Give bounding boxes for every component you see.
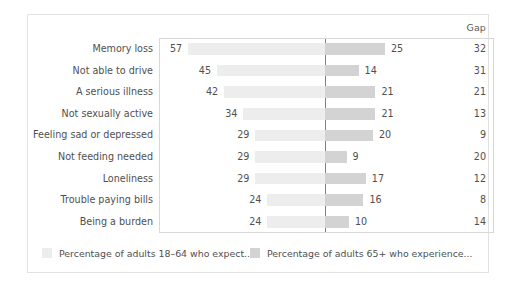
chart-row: Memory loss572532 <box>28 38 490 60</box>
bar-right <box>325 216 349 228</box>
bar-right <box>325 86 375 98</box>
bar-right-value: 20 <box>379 124 409 146</box>
bar-left-value: 57 <box>146 38 182 60</box>
chart-row: A serious illness422121 <box>28 81 490 103</box>
chart-row: Trouble paying bills24168 <box>28 189 490 211</box>
bar-left <box>255 151 325 163</box>
bar-right-value: 16 <box>369 189 399 211</box>
bar-right <box>325 43 385 55</box>
bar-right <box>325 65 359 77</box>
chart-legend: Percentage of adults 18–64 who expect...… <box>28 243 490 267</box>
bar-left <box>188 43 325 55</box>
bar-left-value: 45 <box>175 60 211 82</box>
bar-right-value: 14 <box>365 60 395 82</box>
bar-left <box>255 130 325 142</box>
bar-right <box>325 130 373 142</box>
chart-row: Not sexually active342113 <box>28 103 490 125</box>
chart-row: Feeling sad or depressed29209 <box>28 124 490 146</box>
legend-item[interactable]: Percentage of adults 18–64 who expect... <box>42 243 253 263</box>
row-category-label: A serious illness <box>76 81 153 103</box>
legend-label: Percentage of adults 18–64 who expect... <box>59 248 253 259</box>
bar-right-value: 10 <box>355 211 385 233</box>
bar-right <box>325 151 347 163</box>
row-category-label: Not sexually active <box>62 103 153 125</box>
bar-left <box>243 108 325 120</box>
chart-row: Not feeding needed29920 <box>28 146 490 168</box>
legend-label: Percentage of adults 65+ who experience.… <box>267 248 473 259</box>
legend-swatch-icon <box>42 248 52 258</box>
bar-right <box>325 173 366 185</box>
row-category-label: Loneliness <box>103 168 153 190</box>
bar-left <box>224 86 325 98</box>
row-category-label: Trouble paying bills <box>61 189 153 211</box>
bar-right-value: 21 <box>381 103 411 125</box>
chart-row: Being a burden241014 <box>28 211 490 233</box>
row-category-label: Feeling sad or depressed <box>33 124 153 146</box>
chart-card: Gap Memory loss572532Not able to drive45… <box>27 14 489 273</box>
bar-left <box>267 216 325 228</box>
row-category-label: Being a burden <box>80 211 153 233</box>
legend-item[interactable]: Percentage of adults 65+ who experience.… <box>250 243 473 263</box>
bar-left <box>255 173 325 185</box>
bar-right-value: 21 <box>381 81 411 103</box>
bar-left-value: 29 <box>213 146 249 168</box>
gap-value: 32 <box>428 38 486 60</box>
gap-value: 21 <box>428 81 486 103</box>
bar-left-value: 42 <box>182 81 218 103</box>
bar-left-value: 29 <box>213 168 249 190</box>
bar-right-value: 17 <box>372 168 402 190</box>
chart-row: Not able to drive451431 <box>28 60 490 82</box>
bar-right-value: 9 <box>353 146 383 168</box>
gap-value: 20 <box>428 146 486 168</box>
bar-right <box>325 194 363 206</box>
row-category-label: Not able to drive <box>73 60 153 82</box>
bar-left-value: 34 <box>201 103 237 125</box>
gap-value: 9 <box>428 124 486 146</box>
bar-left-value: 24 <box>225 189 261 211</box>
bar-right-value: 25 <box>391 38 421 60</box>
chart-row: Loneliness291712 <box>28 168 490 190</box>
gap-value: 14 <box>428 211 486 233</box>
gap-value: 8 <box>428 189 486 211</box>
gap-value: 13 <box>428 103 486 125</box>
chart-rows: Memory loss572532Not able to drive451431… <box>28 38 490 233</box>
gap-column-header: Gap <box>428 22 486 33</box>
bar-left-value: 29 <box>213 124 249 146</box>
legend-swatch-icon <box>250 248 260 258</box>
bar-right <box>325 108 375 120</box>
row-category-label: Not feeding needed <box>58 146 153 168</box>
bar-left <box>267 194 325 206</box>
gap-value: 31 <box>428 60 486 82</box>
gap-value: 12 <box>428 168 486 190</box>
bar-left <box>217 65 325 77</box>
row-category-label: Memory loss <box>92 38 153 60</box>
bar-left-value: 24 <box>225 211 261 233</box>
